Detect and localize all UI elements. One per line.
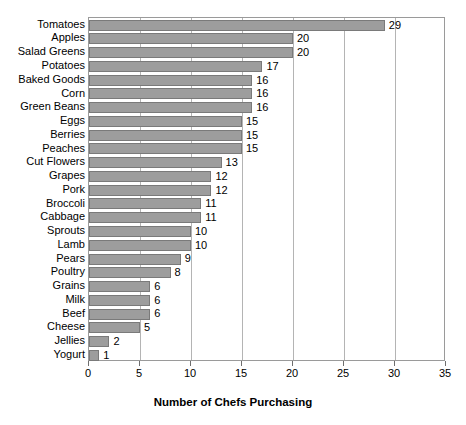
bar bbox=[89, 143, 242, 154]
category-label: Milk bbox=[0, 292, 85, 306]
category-label: Grapes bbox=[0, 168, 85, 182]
bar bbox=[89, 20, 385, 31]
category-label: Cheese bbox=[0, 319, 85, 333]
bar-value-label: 6 bbox=[154, 279, 160, 293]
bar-row: 16 bbox=[89, 73, 444, 87]
bar bbox=[89, 322, 140, 333]
category-label: Cabbage bbox=[0, 209, 85, 223]
bar-row: 15 bbox=[89, 114, 444, 128]
category-label: Potatoes bbox=[0, 58, 85, 72]
bar-value-label: 8 bbox=[175, 265, 181, 279]
bar-value-label: 9 bbox=[185, 251, 191, 265]
bar bbox=[89, 212, 201, 223]
bar-value-label: 1 bbox=[103, 348, 109, 362]
bar-value-label: 15 bbox=[246, 128, 258, 142]
bar-rows: 2920201716161615151513121211111010986665… bbox=[89, 18, 444, 360]
bar-value-label: 11 bbox=[205, 196, 216, 210]
bar-row: 12 bbox=[89, 169, 444, 183]
bar bbox=[89, 198, 201, 209]
bar-row: 11 bbox=[89, 211, 444, 225]
axis-tick-label: 10 bbox=[184, 367, 196, 379]
bar-value-label: 6 bbox=[154, 293, 160, 307]
bar-row: 10 bbox=[89, 238, 444, 252]
axis-tick-label: 5 bbox=[136, 367, 142, 379]
bar-row: 16 bbox=[89, 87, 444, 101]
bar bbox=[89, 350, 99, 361]
category-label: Apples bbox=[0, 30, 85, 44]
bar-row: 17 bbox=[89, 59, 444, 73]
bar-value-label: 10 bbox=[195, 238, 207, 252]
category-label: Corn bbox=[0, 86, 85, 100]
value-axis: 05101520253035 bbox=[88, 361, 445, 391]
bar-chart: TomatoesApplesSalad GreensPotatoesBaked … bbox=[0, 0, 466, 425]
bar bbox=[89, 130, 242, 141]
axis-tick-label: 30 bbox=[388, 367, 400, 379]
bar-row: 6 bbox=[89, 293, 444, 307]
category-label: Jellies bbox=[0, 333, 85, 347]
bar bbox=[89, 185, 211, 196]
bar bbox=[89, 102, 252, 113]
axis-tick bbox=[88, 361, 89, 366]
bar-value-label: 20 bbox=[297, 45, 309, 59]
bar bbox=[89, 281, 150, 292]
bar-row: 20 bbox=[89, 46, 444, 60]
category-label: Salad Greens bbox=[0, 44, 85, 58]
axis-tick-label: 20 bbox=[286, 367, 298, 379]
bar-value-label: 10 bbox=[195, 224, 207, 238]
bar-value-label: 20 bbox=[297, 31, 309, 45]
bar-row: 9 bbox=[89, 252, 444, 266]
bar bbox=[89, 254, 181, 265]
category-label: Eggs bbox=[0, 113, 85, 127]
plot-area: 2920201716161615151513121211111010986665… bbox=[88, 17, 445, 361]
x-axis-title: Number of Chefs Purchasing bbox=[0, 396, 466, 408]
bar-value-label: 12 bbox=[215, 183, 227, 197]
bar bbox=[89, 226, 191, 237]
bar-value-label: 2 bbox=[113, 334, 119, 348]
bar bbox=[89, 295, 150, 306]
category-label: Peaches bbox=[0, 141, 85, 155]
category-label: Pears bbox=[0, 251, 85, 265]
bar-value-label: 15 bbox=[246, 114, 258, 128]
bar-value-label: 6 bbox=[154, 306, 160, 320]
category-label: Baked Goods bbox=[0, 72, 85, 86]
bar bbox=[89, 116, 242, 127]
axis-tick-label: 0 bbox=[85, 367, 91, 379]
axis-tick bbox=[394, 361, 395, 366]
bar-row: 5 bbox=[89, 321, 444, 335]
bar-row: 6 bbox=[89, 307, 444, 321]
axis-tick bbox=[190, 361, 191, 366]
category-label: Tomatoes bbox=[0, 17, 85, 31]
bar-row: 20 bbox=[89, 32, 444, 46]
axis-tick bbox=[241, 361, 242, 366]
bar bbox=[89, 240, 191, 251]
bar bbox=[89, 267, 171, 278]
bar-row: 12 bbox=[89, 183, 444, 197]
bar-value-label: 16 bbox=[256, 73, 268, 87]
axis-tick bbox=[292, 361, 293, 366]
category-label: Beef bbox=[0, 306, 85, 320]
bar-row: 11 bbox=[89, 197, 444, 211]
bar-row: 6 bbox=[89, 279, 444, 293]
category-label: Grains bbox=[0, 278, 85, 292]
category-label: Sprouts bbox=[0, 223, 85, 237]
bar bbox=[89, 171, 211, 182]
bar-value-label: 15 bbox=[246, 141, 258, 155]
bar bbox=[89, 88, 252, 99]
bar bbox=[89, 61, 262, 72]
axis-tick-label: 25 bbox=[337, 367, 349, 379]
category-label: Green Beans bbox=[0, 99, 85, 113]
category-label: Yogurt bbox=[0, 347, 85, 361]
axis-tick bbox=[343, 361, 344, 366]
axis-tick-label: 15 bbox=[235, 367, 247, 379]
bar bbox=[89, 47, 293, 58]
category-axis-labels: TomatoesApplesSalad GreensPotatoesBaked … bbox=[0, 17, 85, 361]
category-label: Berries bbox=[0, 127, 85, 141]
bar-row: 29 bbox=[89, 18, 444, 32]
bar-value-label: 16 bbox=[256, 100, 268, 114]
bar bbox=[89, 75, 252, 86]
bar-value-label: 13 bbox=[226, 155, 238, 169]
bar bbox=[89, 309, 150, 320]
bar-row: 2 bbox=[89, 334, 444, 348]
category-label: Pork bbox=[0, 182, 85, 196]
bar-value-label: 16 bbox=[256, 86, 268, 100]
